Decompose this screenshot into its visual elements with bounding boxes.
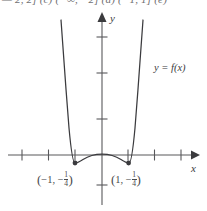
x-axis (8, 150, 200, 161)
y-axis-label: y (109, 12, 115, 24)
coordinate-label-right: (1, −14) (111, 171, 141, 188)
coord-x-value: −1, (41, 174, 55, 185)
minimum-point-right (126, 161, 131, 166)
y-axis (97, 12, 108, 205)
minimum-point-left (73, 161, 78, 166)
paren-close: ) (68, 172, 72, 187)
paren-close: ) (137, 172, 141, 187)
coordinate-plot: x y (0, 0, 207, 211)
coord-x-value: 1, (115, 174, 123, 185)
x-axis-label: x (190, 162, 196, 174)
function-label: y = f(x) (154, 62, 186, 73)
graph-figure: — 2, 2] (c) (−∞, −2] (d) (−1, 1] (e) (0, 0, 207, 211)
coordinate-label-left: (−1, −14) (37, 171, 73, 188)
y-axis-arrow (98, 12, 107, 22)
x-axis-arrow (191, 151, 200, 160)
